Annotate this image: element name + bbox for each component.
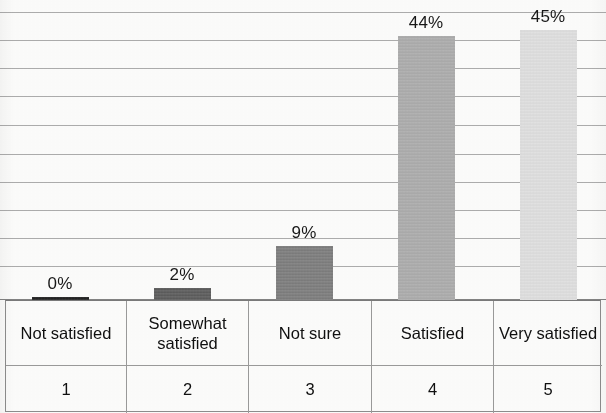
scale-number-3: 3 — [249, 366, 371, 413]
scale-number-5: 5 — [494, 366, 602, 413]
bar-2 — [154, 288, 211, 300]
category-label-5: Very satisfied — [494, 301, 602, 365]
category-label-1: Not satisfied — [6, 301, 126, 365]
gridline — [0, 210, 606, 211]
gridline — [0, 96, 606, 97]
category-table: Not satisfied Somewhat satisfied Not sur… — [5, 300, 601, 412]
bar-texture — [398, 36, 455, 300]
bar-value-label-1: 0% — [20, 274, 100, 294]
gridline — [0, 68, 606, 69]
category-label-3: Not sure — [249, 301, 371, 365]
category-label-2: Somewhat satisfied — [127, 301, 248, 365]
gridline — [0, 182, 606, 183]
bar-value-label-3: 9% — [264, 223, 344, 243]
bar-texture — [520, 30, 577, 300]
bar-3 — [276, 246, 333, 300]
bar-5 — [520, 30, 577, 300]
gridline — [0, 40, 606, 41]
scale-number-4: 4 — [372, 366, 493, 413]
bar-texture — [276, 246, 333, 300]
bar-value-label-2: 2% — [142, 265, 222, 285]
plot-area: 0%2%9%44%45% — [0, 0, 606, 300]
bar-4 — [398, 36, 455, 300]
bar-texture — [154, 288, 211, 300]
bar-value-label-5: 45% — [508, 7, 588, 27]
scale-number-1: 1 — [6, 366, 126, 413]
chart-page: 0%2%9%44%45% Not satisfied Somewhat sati… — [0, 0, 606, 413]
gridline — [0, 125, 606, 126]
scale-number-2: 2 — [127, 366, 248, 413]
gridline — [0, 154, 606, 155]
bar-value-label-4: 44% — [386, 13, 466, 33]
category-label-4: Satisfied — [372, 301, 493, 365]
